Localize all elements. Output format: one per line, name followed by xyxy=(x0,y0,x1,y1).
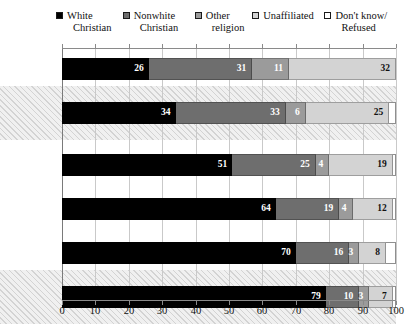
bar-segment-other-religion: 11 xyxy=(252,58,289,80)
x-tick-label-50: 50 xyxy=(224,305,235,317)
bar-segment-nonwhite-christian: 19 xyxy=(276,198,339,220)
bar-segment-don-t-know-refused xyxy=(393,154,396,176)
segment-value-label: 25 xyxy=(300,160,315,170)
bar-segment-nonwhite-christian: 31 xyxy=(149,58,253,80)
segment-value-label: 31 xyxy=(237,64,252,74)
legend-item-nonwhite-christian: NonwhiteChristian xyxy=(123,10,195,33)
stacked-bar: 701638 xyxy=(62,242,396,264)
bar-segment-white-christian: 34 xyxy=(62,102,176,124)
legend-label-line1: Nonwhite xyxy=(134,10,179,22)
segment-value-label: 64 xyxy=(261,204,276,214)
legend-label-line1: Don't know/ xyxy=(335,10,387,22)
legend-label-line2: Christian xyxy=(134,22,179,34)
bar-segment-don-t-know-refused xyxy=(393,198,396,220)
x-tick-label-0: 0 xyxy=(59,305,64,317)
bar-segment-don-t-know-refused xyxy=(386,242,396,264)
segment-value-label: 34 xyxy=(161,108,176,118)
stacked-bar: 6419412 xyxy=(62,198,396,220)
segment-value-label: 33 xyxy=(270,108,285,118)
bar-segment-unaffiliated: 19 xyxy=(329,154,392,176)
x-tick-label-30: 30 xyxy=(157,305,168,317)
legend-label-line1: White xyxy=(67,10,112,22)
legend-label-line1: Unaffiliated xyxy=(263,10,314,22)
filled-black-square-icon xyxy=(56,12,63,19)
segment-value-label: 25 xyxy=(374,108,389,118)
x-tick-label-60: 60 xyxy=(257,305,268,317)
filled-midgray-square-icon xyxy=(195,12,202,19)
segment-value-label: 16 xyxy=(334,248,349,258)
bar-segment-don-t-know-refused xyxy=(389,102,396,124)
axis-tick-top-100 xyxy=(396,44,397,48)
stacked-bar: 5125419 xyxy=(62,154,396,176)
bar-segment-white-christian: 26 xyxy=(62,58,149,80)
bar-segment-unaffiliated: 25 xyxy=(306,102,390,124)
stacked-bar-chart: WhiteChristianNonwhiteChristianOtherreli… xyxy=(0,0,415,333)
bar-segment-unaffiliated: 8 xyxy=(359,242,386,264)
x-tick-label-90: 90 xyxy=(358,305,369,317)
segment-value-label: 8 xyxy=(375,248,385,258)
x-tick-label-20: 20 xyxy=(124,305,135,317)
bar-segment-other-religion: 4 xyxy=(316,154,329,176)
chart-legend: WhiteChristianNonwhiteChristianOtherreli… xyxy=(56,10,404,42)
segment-value-label: 32 xyxy=(380,64,395,74)
segment-value-label: 4 xyxy=(342,204,352,214)
x-tick-label-80: 80 xyxy=(324,305,335,317)
bar-segment-white-christian: 51 xyxy=(62,154,232,176)
legend-label-line2: Christian xyxy=(67,22,112,34)
segment-value-label: 6 xyxy=(295,108,305,118)
bar-segment-unaffiliated: 32 xyxy=(289,58,396,80)
filled-lightgray-square-icon xyxy=(252,12,259,19)
chart-row: ObamaCoalition3433625 xyxy=(62,102,396,124)
bar-segment-other-religion: 3 xyxy=(349,242,359,264)
x-axis-tick-labels: 0102030405060708090100 xyxy=(62,305,396,321)
segment-value-label: 70 xyxy=(281,248,296,258)
legend-label-line2: Refused xyxy=(335,22,387,34)
chart-row: 50-646419412 xyxy=(62,198,396,220)
segment-value-label: 3 xyxy=(349,248,359,258)
bar-segment-white-christian: 64 xyxy=(62,198,276,220)
bar-segment-white-christian: 70 xyxy=(62,242,296,264)
legend-label: WhiteChristian xyxy=(67,10,112,33)
bar-segment-other-religion: 4 xyxy=(339,198,352,220)
segment-value-label: 51 xyxy=(218,160,233,170)
bar-segment-other-religion: 6 xyxy=(286,102,306,124)
legend-item-white-christian: WhiteChristian xyxy=(56,10,123,33)
bar-segment-unaffiliated: 12 xyxy=(353,198,393,220)
legend-label: NonwhiteChristian xyxy=(134,10,179,33)
legend-item-unaffiliated: Unaffiliated xyxy=(252,10,324,22)
chart-row: 30-495125419 xyxy=(62,154,396,176)
legend-label: Otherreligion xyxy=(206,10,245,33)
segment-value-label: 12 xyxy=(377,204,392,214)
segment-value-label: 19 xyxy=(377,160,392,170)
stacked-bar: 26311132 xyxy=(62,58,396,80)
legend-item-other-religion: Otherreligion xyxy=(195,10,252,33)
chart-row: 18-2926311132 xyxy=(62,58,396,80)
x-tick-label-40: 40 xyxy=(191,305,202,317)
legend-label-line2: religion xyxy=(206,22,245,34)
x-tick-label-70: 70 xyxy=(291,305,302,317)
legend-label-line1: Other xyxy=(206,10,245,22)
legend-label: Don't know/Refused xyxy=(335,10,387,33)
segment-value-label: 26 xyxy=(134,64,149,74)
chart-row: 65+701638 xyxy=(62,242,396,264)
x-tick-label-10: 10 xyxy=(90,305,101,317)
stacked-bar: 3433625 xyxy=(62,102,396,124)
plot-top-rule xyxy=(62,48,396,49)
x-tick-label-100: 100 xyxy=(388,305,404,317)
segment-value-label: 19 xyxy=(324,204,339,214)
segment-value-label: 11 xyxy=(274,64,288,74)
legend-item-dont-know-refused: Don't know/Refused xyxy=(324,10,404,33)
empty-white-square-icon xyxy=(324,12,331,19)
plot-bottom-rule xyxy=(62,300,396,301)
legend-label: Unaffiliated xyxy=(263,10,314,22)
bar-segment-nonwhite-christian: 33 xyxy=(176,102,286,124)
segment-value-label: 4 xyxy=(318,160,328,170)
gridline-100 xyxy=(396,48,397,301)
bar-segment-nonwhite-christian: 25 xyxy=(232,154,316,176)
bar-segment-nonwhite-christian: 16 xyxy=(296,242,349,264)
filled-darkgray-square-icon xyxy=(123,12,130,19)
plot-area: 18-2926311132ObamaCoalition343362530-495… xyxy=(62,48,396,301)
